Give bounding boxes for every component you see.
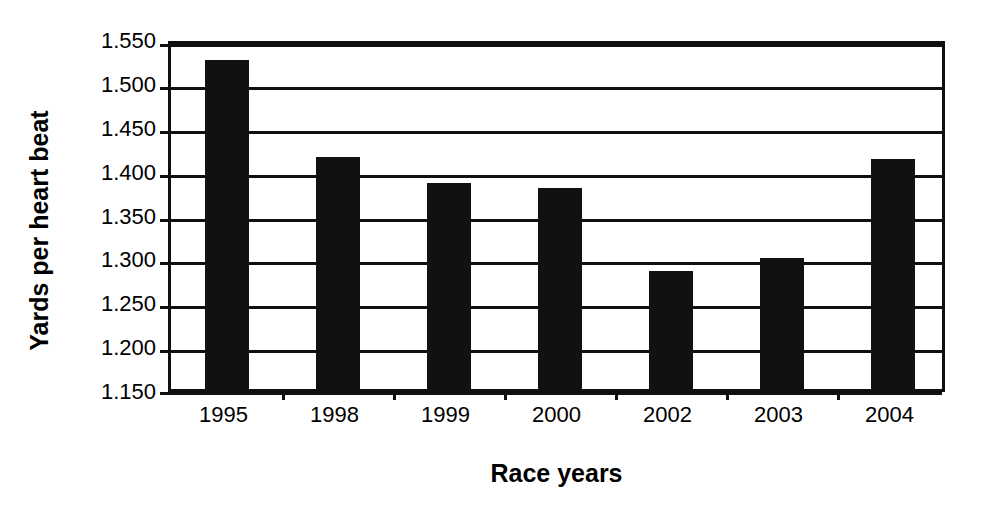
bar-chart-figure: Yards per heart beat 1.5501.5001.4501.40… xyxy=(0,0,981,517)
y-tick-label: 1.450 xyxy=(56,118,156,140)
x-tick-label: 1998 xyxy=(279,402,390,428)
y-tick-label: 1.400 xyxy=(56,162,156,184)
x-tick-label: 2003 xyxy=(723,402,834,428)
x-axis-tick-labels: 1995199819992000200220032004 xyxy=(168,402,945,432)
y-tick-mark xyxy=(160,175,171,178)
y-tick-label: 1.350 xyxy=(56,206,156,228)
gridline xyxy=(171,392,942,395)
category-tick-mark xyxy=(504,389,507,400)
category-tick-mark xyxy=(837,389,840,400)
y-tick-label: 1.550 xyxy=(56,30,156,52)
x-tick-label: 2000 xyxy=(501,402,612,428)
x-tick-label: 1995 xyxy=(168,402,279,428)
y-tick-mark xyxy=(160,306,171,309)
y-tick-label: 1.250 xyxy=(56,293,156,315)
y-tick-mark xyxy=(160,219,171,222)
category-tick-mark xyxy=(393,389,396,400)
x-tick-label: 2002 xyxy=(612,402,723,428)
category-tick-mark xyxy=(615,389,618,400)
y-tick-mark xyxy=(160,44,171,47)
y-tick-label: 1.300 xyxy=(56,249,156,271)
x-axis-title: Race years xyxy=(168,459,945,488)
y-tick-label: 1.500 xyxy=(56,74,156,96)
x-tick-label: 2004 xyxy=(834,402,945,428)
category-tick-marks xyxy=(171,44,942,389)
x-tick-label: 1999 xyxy=(390,402,501,428)
y-tick-mark xyxy=(160,131,171,134)
category-tick-mark xyxy=(282,389,285,400)
y-tick-mark xyxy=(160,262,171,265)
plot-area xyxy=(168,41,945,392)
y-axis-title: Yards per heart beat xyxy=(25,51,54,411)
y-axis-tick-labels: 1.5501.5001.4501.4001.3501.3001.2501.200… xyxy=(56,0,156,517)
y-tick-mark xyxy=(160,392,171,395)
y-tick-label: 1.150 xyxy=(56,381,156,403)
y-tick-mark xyxy=(160,87,171,90)
y-tick-mark xyxy=(160,350,171,353)
category-tick-mark xyxy=(726,389,729,400)
y-tick-label: 1.200 xyxy=(56,337,156,359)
